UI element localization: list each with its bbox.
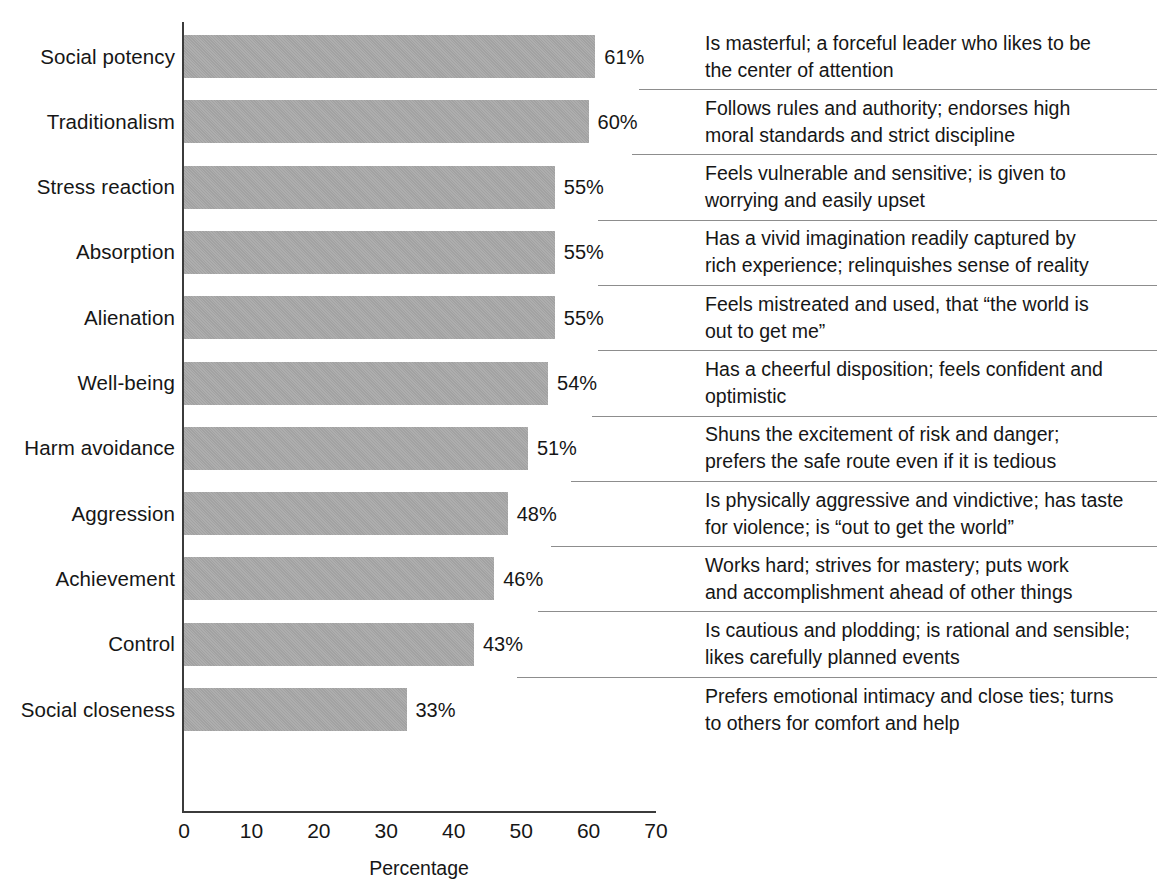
value-label: 43%	[483, 633, 523, 655]
bar	[184, 100, 589, 143]
row-separator	[551, 546, 1157, 547]
trait-description: Works hard; strives for mastery; puts wo…	[705, 552, 1145, 606]
bar	[184, 623, 474, 666]
description-line-1: Is cautious and plodding; is rational an…	[705, 619, 1130, 641]
row-separator	[598, 285, 1157, 286]
trait-description: Prefers emotional intimacy and close tie…	[705, 683, 1145, 737]
x-tick-label: 70	[626, 818, 686, 844]
row-separator	[639, 89, 1157, 90]
chart-row: Stress reaction55%Feels vulnerable and s…	[0, 166, 1157, 209]
description-line-1: Feels mistreated and used, that “the wor…	[705, 293, 1089, 315]
description-line-1: Is physically aggressive and vindictive;…	[705, 489, 1123, 511]
trait-description: Is cautious and plodding; is rational an…	[705, 617, 1145, 671]
row-separator	[598, 350, 1157, 351]
value-label: 55%	[564, 176, 604, 198]
category-label: Achievement	[0, 567, 175, 591]
bar	[184, 166, 555, 209]
value-label: 48%	[517, 503, 557, 525]
trait-description: Is physically aggressive and vindictive;…	[705, 487, 1145, 541]
description-line-1: Has a cheerful disposition; feels confid…	[705, 358, 1103, 380]
description-line-2: moral standards and strict discipline	[705, 122, 1145, 149]
trait-description: Has a vivid imagination readily captured…	[705, 225, 1145, 279]
category-label: Absorption	[0, 240, 175, 264]
description-line-2: out to get me”	[705, 318, 1145, 345]
description-line-1: Works hard; strives for mastery; puts wo…	[705, 554, 1069, 576]
description-line-2: for violence; is “out to get the world”	[705, 514, 1145, 541]
row-separator	[538, 611, 1157, 612]
chart-row: Traditionalism60%Follows rules and autho…	[0, 100, 1157, 143]
category-label: Harm avoidance	[0, 436, 175, 460]
category-label: Stress reaction	[0, 175, 175, 199]
chart-row: Alienation55%Feels mistreated and used, …	[0, 296, 1157, 339]
bar	[184, 492, 508, 535]
chart-row: Social closeness33%Prefers emotional int…	[0, 688, 1157, 731]
trait-description: Feels mistreated and used, that “the wor…	[705, 291, 1145, 345]
row-separator	[598, 220, 1157, 221]
chart-row: Absorption55%Has a vivid imagination rea…	[0, 231, 1157, 274]
chart-row: Aggression48%Is physically aggressive an…	[0, 492, 1157, 535]
x-tick-label: 0	[154, 818, 214, 844]
description-line-2: to others for comfort and help	[705, 710, 1145, 737]
category-label: Social closeness	[0, 698, 175, 722]
x-tick-label: 40	[424, 818, 484, 844]
value-label: 55%	[564, 307, 604, 329]
trait-description: Shuns the excitement of risk and danger;…	[705, 421, 1145, 475]
trait-description: Follows rules and authority; endorses hi…	[705, 95, 1145, 149]
row-separator	[592, 416, 1157, 417]
value-label: 51%	[537, 437, 577, 459]
bar	[184, 557, 494, 600]
description-line-2: worrying and easily upset	[705, 187, 1145, 214]
category-label: Alienation	[0, 306, 175, 330]
description-line-1: Follows rules and authority; endorses hi…	[705, 97, 1070, 119]
trait-description: Is masterful; a forceful leader who like…	[705, 30, 1145, 84]
description-line-2: and accomplishment ahead of other things	[705, 579, 1145, 606]
chart-row: Well-being54%Has a cheerful disposition;…	[0, 362, 1157, 405]
row-separator	[632, 154, 1157, 155]
x-tick-label: 50	[491, 818, 551, 844]
description-line-1: Shuns the excitement of risk and danger;	[705, 423, 1059, 445]
x-axis-title: Percentage	[182, 856, 656, 880]
x-tick-label: 30	[356, 818, 416, 844]
description-line-2: the center of attention	[705, 57, 1145, 84]
bar	[184, 35, 595, 78]
bar-chart: Social potency61%Is masterful; a forcefu…	[0, 0, 1157, 887]
description-line-2: optimistic	[705, 383, 1145, 410]
x-tick-label: 60	[559, 818, 619, 844]
category-label: Control	[0, 632, 175, 656]
description-line-1: Is masterful; a forceful leader who like…	[705, 32, 1091, 54]
category-label: Traditionalism	[0, 110, 175, 134]
value-label: 33%	[416, 699, 456, 721]
description-line-2: rich experience; relinquishes sense of r…	[705, 252, 1145, 279]
trait-description: Has a cheerful disposition; feels confid…	[705, 356, 1145, 410]
row-separator	[571, 481, 1157, 482]
chart-row: Harm avoidance51%Shuns the excitement of…	[0, 427, 1157, 470]
category-label: Social potency	[0, 45, 175, 69]
value-label: 46%	[503, 568, 543, 590]
description-line-1: Feels vulnerable and sensitive; is given…	[705, 162, 1066, 184]
x-tick-label: 20	[289, 818, 349, 844]
chart-row: Control43%Is cautious and plodding; is r…	[0, 623, 1157, 666]
category-label: Aggression	[0, 502, 175, 526]
description-line-2: likes carefully planned events	[705, 644, 1145, 671]
bar	[184, 231, 555, 274]
description-line-1: Has a vivid imagination readily captured…	[705, 227, 1076, 249]
description-line-1: Prefers emotional intimacy and close tie…	[705, 685, 1114, 707]
bar	[184, 362, 548, 405]
row-separator	[517, 677, 1157, 678]
chart-row: Social potency61%Is masterful; a forcefu…	[0, 35, 1157, 78]
bar	[184, 296, 555, 339]
x-tick-label: 10	[221, 818, 281, 844]
trait-description: Feels vulnerable and sensitive; is given…	[705, 160, 1145, 214]
x-axis-line	[182, 811, 656, 813]
chart-row: Achievement46%Works hard; strives for ma…	[0, 557, 1157, 600]
bar	[184, 688, 407, 731]
value-label: 60%	[598, 111, 638, 133]
value-label: 61%	[604, 46, 644, 68]
category-label: Well-being	[0, 371, 175, 395]
description-line-2: prefers the safe route even if it is ted…	[705, 448, 1145, 475]
value-label: 54%	[557, 372, 597, 394]
value-label: 55%	[564, 241, 604, 263]
bar	[184, 427, 528, 470]
